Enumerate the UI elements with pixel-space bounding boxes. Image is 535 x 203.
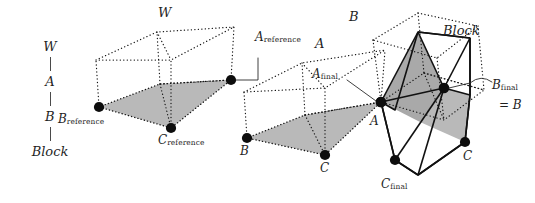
label-b-reference-sub: reference <box>67 117 104 126</box>
label-c-intermediate: C <box>320 162 329 174</box>
label-equals-b: = B <box>499 99 522 111</box>
vertex-dot-B-intermediate <box>242 133 252 143</box>
block-label: Block <box>443 24 480 37</box>
reference-frame-edge-vertical-1 <box>96 60 99 107</box>
final-frame-edge-vertical-1 <box>373 40 381 102</box>
chain-node-block: Block <box>6 145 94 158</box>
frame1-label-w: W <box>158 6 172 19</box>
chain-connector-3 <box>50 127 51 141</box>
label-c-reference-base: C <box>158 133 167 147</box>
chain-connector-1 <box>50 57 51 71</box>
chain-connector-2 <box>50 92 51 106</box>
label-c-reference: Creference <box>158 134 205 147</box>
block-edge-mid-cross-1 <box>444 38 470 88</box>
frame2-label-a: A <box>315 37 325 50</box>
intermediate-frame-shaded-face <box>247 102 381 155</box>
reference-frame-top-face <box>96 27 234 60</box>
label-a-reference-base: A <box>255 30 264 44</box>
label-a-final: Afinal <box>312 68 338 81</box>
label-c-block: C <box>463 150 472 162</box>
diagram-canvas: .dot-line{ fill:none; stroke:#141414; st… <box>0 0 535 203</box>
label-c-final-sub: final <box>390 182 407 191</box>
label-a-reference-sub: reference <box>264 35 301 44</box>
vertex-dot-A-reference <box>226 75 236 85</box>
vertex-dot-B-reference <box>94 102 104 112</box>
label-a-final-sub: final <box>321 72 338 81</box>
label-b-final-sub: final <box>501 83 518 92</box>
chain-node-a: A <box>6 75 94 88</box>
label-c-final-base: C <box>381 177 390 191</box>
label-c-final: Cfinal <box>381 178 407 191</box>
intermediate-frame-edge-vertical-1 <box>244 92 247 138</box>
label-b-reference: Breference <box>58 113 104 126</box>
vertex-dot-C-reference <box>166 123 176 133</box>
reference-frame-inner-edge-3 <box>157 32 171 60</box>
chain-node-w: W <box>6 40 94 53</box>
frame-hierarchy-chain: W A B Block <box>6 40 94 158</box>
vertex-dot-A-block <box>376 97 387 108</box>
vertex-dot-B-final <box>439 83 450 94</box>
reference-frame-edge-vertical-3 <box>231 27 234 80</box>
a-final-leader-line <box>347 80 376 101</box>
label-a-block: A <box>370 115 379 127</box>
label-b-final: Bfinal <box>492 79 518 92</box>
a-reference-leader-line <box>236 58 258 80</box>
block-edge-bottom-right <box>418 142 465 175</box>
frame3-label-b: B <box>349 10 359 23</box>
label-a-final-base: A <box>312 67 321 81</box>
label-b-intermediate: B <box>240 145 249 157</box>
reference-frame-edge-vertical-2 <box>157 32 160 84</box>
reference-frame-group <box>94 27 258 133</box>
vertex-dot-C-block <box>460 137 470 147</box>
label-c-reference-sub: reference <box>167 138 204 147</box>
vertex-dot-C-intermediate <box>320 150 330 160</box>
label-b-final-base: B <box>492 78 501 92</box>
label-b-reference-base: B <box>58 112 67 126</box>
vertex-dot-C-final <box>390 155 400 165</box>
block-edge-bottom-left <box>381 102 395 160</box>
label-a-reference: Areference <box>255 31 301 44</box>
